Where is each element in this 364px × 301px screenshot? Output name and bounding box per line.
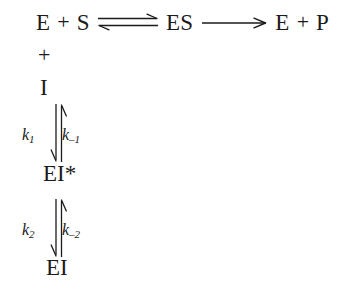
equilibrium-arrow-icon xyxy=(97,11,159,33)
rate-constant-k-minus-1: k–1 xyxy=(62,127,80,143)
rate-constant-k2-subscript: 2 xyxy=(29,228,35,240)
species-inhibitor: I xyxy=(40,76,48,99)
right-arrow-icon xyxy=(201,12,267,32)
species-product: P xyxy=(316,11,329,34)
rate-constant-k2: k2 xyxy=(22,222,35,238)
plus-sign-products: + xyxy=(290,9,316,35)
plus-sign-inhibitor: + xyxy=(38,44,50,66)
species-enzyme-inhibitor-activated-complex: EI* xyxy=(43,162,76,185)
rate-constant-k-minus-1-subscript: –1 xyxy=(69,133,80,145)
reaction-scheme: E + S ES E + P + xyxy=(0,0,364,301)
species-enzyme-substrate-complex: ES xyxy=(166,11,193,34)
rate-constant-k1-subscript: 1 xyxy=(29,133,35,145)
species-enzyme-reactant: E xyxy=(36,11,50,34)
rate-constant-k-minus-2-subscript: –2 xyxy=(69,228,80,240)
species-enzyme-inhibitor-complex: EI xyxy=(46,256,68,279)
plus-sign-reactants: + xyxy=(50,9,76,35)
rate-constant-k1: k1 xyxy=(22,127,35,143)
species-substrate: S xyxy=(77,11,90,34)
species-enzyme-product: E xyxy=(275,11,289,34)
rate-constant-k-minus-2: k–2 xyxy=(62,222,80,238)
top-reaction-row: E + S ES E + P xyxy=(36,8,329,36)
